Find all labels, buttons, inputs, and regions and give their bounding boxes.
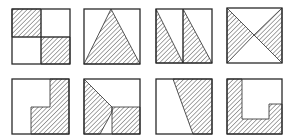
hatched-region [112, 107, 140, 134]
figure-4 [227, 8, 282, 63]
hatched-region [227, 8, 254, 63]
figure-8 [227, 79, 282, 134]
hatched-region [254, 8, 282, 63]
hatched-region [156, 9, 183, 63]
figure-2 [84, 9, 140, 64]
hatched-region [12, 9, 41, 37]
hatched-region [227, 79, 282, 134]
squares-diagram [0, 0, 291, 139]
figure-grid [0, 0, 291, 139]
hatched-region [84, 79, 112, 134]
hatched-region [173, 79, 212, 134]
figure-5 [12, 79, 69, 134]
hatched-region [41, 37, 70, 64]
figure-7 [156, 79, 212, 134]
hatched-region [84, 9, 140, 64]
hatched-region [183, 9, 212, 63]
figure-1 [12, 9, 70, 64]
hatched-region [31, 79, 69, 134]
figure-3 [156, 9, 212, 63]
figure-6 [84, 79, 140, 134]
